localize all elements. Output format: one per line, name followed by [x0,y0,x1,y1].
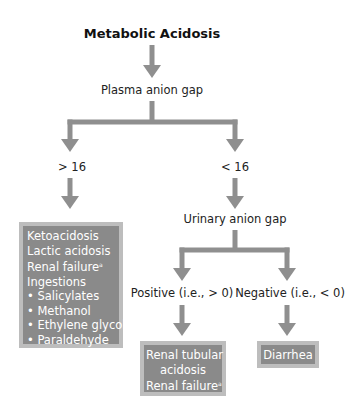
positive-uag-causes-box: Renal tubular acidosis Renal failurea [140,341,226,396]
cause-item: • Methanol [27,304,115,319]
node-gap-less-16: < 16 [221,160,249,174]
cause-item: Diarrhea [263,348,313,363]
cause-item: Renal failurea [27,258,115,275]
cause-item: • Ethylene glycol [27,318,115,333]
cause-item: • Paraldehyde [27,333,115,348]
cause-item: Ketoacidosis [27,229,115,244]
node-positive: Positive (i.e., > 0) [131,286,233,300]
cause-item: acidosis [146,363,220,378]
high-anion-gap-causes-box: Ketoacidosis Lactic acidosis Renal failu… [19,222,123,348]
node-urinary-anion-gap: Urinary anion gap [183,212,286,226]
node-gap-greater-16: > 16 [58,160,86,174]
flowchart-title: Metabolic Acidosis [84,26,221,41]
cause-item: Lactic acidosis [27,244,115,259]
node-negative: Negative (i.e., < 0) [235,286,345,300]
node-plasma-anion-gap: Plasma anion gap [101,83,203,97]
negative-uag-causes-box: Diarrhea [257,341,319,368]
cause-item: Renal tubular [146,348,220,363]
footnote-marker: a [218,380,222,387]
cause-item: Ingestions [27,275,115,290]
cause-item: Renal failurea [146,377,220,394]
cause-item: • Salicylates [27,289,115,304]
footnote-marker: a [99,261,103,268]
